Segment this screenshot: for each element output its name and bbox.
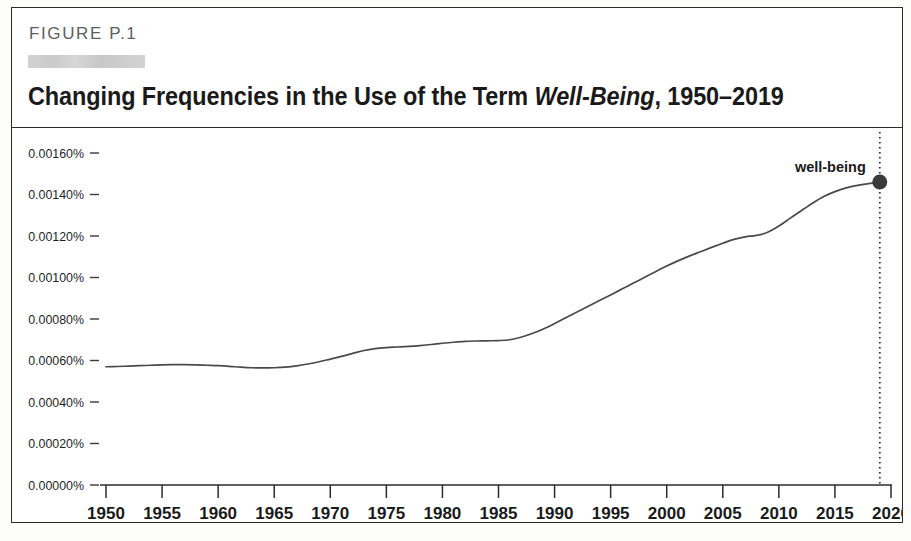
y-tick-label: 0.00020% xyxy=(28,437,84,451)
x-tick-label: 1970 xyxy=(311,504,349,522)
x-tick-label: 1990 xyxy=(536,504,574,522)
x-tick-label: 2010 xyxy=(760,504,798,522)
y-axis-tick-labels: 0.00000%0.00020%0.00040%0.00060%0.00080%… xyxy=(28,147,84,493)
series-endpoint-marker xyxy=(872,175,887,190)
series-line xyxy=(106,182,880,368)
endpoint-dot xyxy=(872,175,887,190)
x-tick-label: 1955 xyxy=(143,504,181,522)
y-tick-label: 0.00000% xyxy=(28,479,84,493)
line-chart-svg: 0.00000%0.00020%0.00040%0.00060%0.00080%… xyxy=(12,128,902,522)
x-tick-label: 1975 xyxy=(367,504,405,522)
figure-title: Changing Frequencies in the Use of the T… xyxy=(28,82,784,111)
y-axis-tick-marks xyxy=(90,153,99,485)
y-tick-label: 0.00060% xyxy=(28,354,84,368)
figure-title-prefix: Changing Frequencies in the Use of the T… xyxy=(28,82,535,110)
x-tick-label: 1950 xyxy=(87,504,125,522)
x-axis-tick-marks xyxy=(106,485,891,498)
figure-title-italic-term: Well-Being xyxy=(535,82,655,110)
x-tick-label: 2000 xyxy=(648,504,686,522)
x-tick-label: 1985 xyxy=(480,504,518,522)
series-label-text: well-being xyxy=(794,159,866,175)
figure-number-label: FIGURE P.1 xyxy=(29,24,137,44)
figure-container: FIGURE P.1 Changing Frequencies in the U… xyxy=(11,7,903,523)
well-being-line-series xyxy=(106,182,880,368)
series-inline-label: well-being xyxy=(794,159,866,175)
figure-title-suffix: , 1950–2019 xyxy=(654,82,783,110)
figure-header: FIGURE P.1 Changing Frequencies in the U… xyxy=(12,8,902,126)
y-tick-label: 0.00080% xyxy=(28,313,84,327)
x-tick-label: 1980 xyxy=(424,504,462,522)
y-tick-label: 0.00160% xyxy=(28,147,84,161)
x-axis-tick-labels: 1950195519601965197019751980198519901995… xyxy=(87,504,902,522)
x-tick-label: 1965 xyxy=(255,504,293,522)
y-tick-label: 0.00100% xyxy=(28,271,84,285)
chart-plot-area: 0.00000%0.00020%0.00040%0.00060%0.00080%… xyxy=(12,128,902,522)
y-tick-label: 0.00120% xyxy=(28,230,84,244)
x-tick-label: 2020 xyxy=(872,504,902,522)
x-tick-label: 2005 xyxy=(704,504,742,522)
y-tick-label: 0.00040% xyxy=(28,396,84,410)
x-tick-label: 2015 xyxy=(816,504,854,522)
redacted-subtitle-bar xyxy=(28,55,145,68)
figure-screenshot: FIGURE P.1 Changing Frequencies in the U… xyxy=(0,0,911,541)
x-tick-label: 1960 xyxy=(199,504,237,522)
y-tick-label: 0.00140% xyxy=(28,188,84,202)
x-tick-label: 1995 xyxy=(592,504,630,522)
